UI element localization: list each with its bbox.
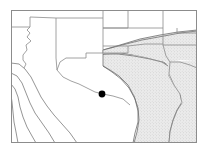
locality-marker[interactable] bbox=[99, 91, 106, 98]
distribution-map-figure bbox=[0, 0, 208, 160]
map-canvas bbox=[0, 0, 208, 160]
